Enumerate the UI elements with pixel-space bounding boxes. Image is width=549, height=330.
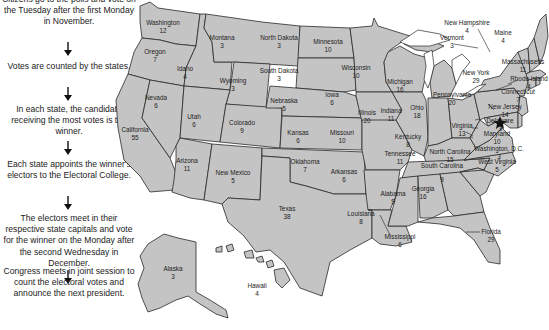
svg-text:6: 6 [296, 137, 300, 144]
svg-text:Delaware: Delaware [487, 117, 514, 124]
svg-text:4: 4 [255, 290, 259, 297]
svg-text:29: 29 [487, 236, 495, 243]
svg-text:11: 11 [520, 66, 527, 73]
svg-text:10: 10 [324, 46, 332, 53]
svg-text:6: 6 [154, 102, 158, 109]
svg-text:Virginia: Virginia [451, 122, 473, 130]
svg-text:Idaho: Idaho [177, 65, 193, 72]
svg-text:Florida: Florida [481, 228, 501, 235]
svg-text:11: 11 [397, 158, 404, 165]
svg-text:4: 4 [501, 37, 505, 44]
svg-text:3: 3 [231, 85, 235, 92]
svg-text:6: 6 [342, 176, 346, 183]
label-new-hampshire: New Hampshire4 [444, 19, 490, 34]
svg-text:18: 18 [413, 112, 421, 119]
svg-text:Michigan: Michigan [387, 78, 413, 86]
svg-text:7: 7 [303, 166, 307, 173]
svg-text:10: 10 [338, 137, 346, 144]
svg-text:5: 5 [231, 177, 235, 184]
svg-text:7: 7 [153, 56, 157, 63]
svg-text:5: 5 [495, 166, 499, 173]
svg-text:Maine: Maine [494, 29, 512, 36]
svg-text:Tennessee: Tennessee [385, 150, 416, 157]
svg-text:11: 11 [388, 115, 395, 122]
svg-text:Alaska: Alaska [163, 265, 183, 272]
svg-text:4: 4 [183, 73, 187, 80]
svg-text:Louisiana: Louisiana [347, 210, 375, 217]
state-wisconsin[interactable] [384, 46, 428, 92]
state-colorado[interactable] [220, 104, 282, 148]
svg-text:3: 3 [450, 42, 454, 49]
svg-text:3: 3 [277, 75, 281, 82]
svg-text:South Dakota: South Dakota [260, 67, 299, 74]
svg-text:Utah: Utah [187, 113, 201, 120]
svg-text:Mississippi: Mississippi [385, 233, 416, 241]
svg-text:8: 8 [359, 218, 363, 225]
svg-text:Oregon: Oregon [144, 48, 166, 56]
svg-text:Maryland: Maryland [484, 130, 511, 138]
svg-text:North Carolina: North Carolina [429, 148, 471, 155]
svg-text:8: 8 [406, 141, 410, 148]
svg-text:3: 3 [277, 42, 281, 49]
svg-text:Washington: Washington [146, 19, 180, 27]
svg-text:20: 20 [363, 117, 371, 124]
svg-text:Wyoming: Wyoming [220, 77, 247, 85]
svg-text:Kansas: Kansas [287, 129, 308, 136]
us-electoral-map: Washington12 Oregon7 California55 Idaho4… [0, 0, 549, 330]
svg-text:15: 15 [446, 156, 454, 163]
state-alaska[interactable] [138, 234, 228, 318]
svg-text:South Carolina: South Carolina [421, 162, 464, 169]
svg-text:Ohio: Ohio [410, 104, 424, 111]
svg-text:10: 10 [352, 72, 360, 79]
svg-text:55: 55 [131, 134, 139, 141]
svg-text:6: 6 [398, 241, 402, 248]
svg-text:Rhode Island: Rhode Island [510, 75, 548, 82]
svg-text:Oklahoma: Oklahoma [290, 158, 320, 165]
svg-text:Indiana: Indiana [381, 107, 402, 114]
svg-text:5: 5 [282, 105, 286, 112]
svg-text:Alabama: Alabama [380, 190, 406, 197]
svg-text:Iowa: Iowa [325, 91, 339, 98]
svg-text:New York: New York [463, 69, 491, 76]
svg-text:29: 29 [472, 77, 480, 84]
svg-text:Kentucky: Kentucky [395, 133, 422, 141]
svg-text:Arkansas: Arkansas [331, 168, 358, 175]
svg-text:Colorado: Colorado [229, 119, 255, 126]
label-hawaii: Hawaii4 [247, 282, 266, 297]
svg-text:38: 38 [283, 213, 291, 220]
svg-text:13: 13 [458, 130, 466, 137]
svg-text:10: 10 [493, 138, 501, 145]
svg-text:9: 9 [391, 198, 395, 205]
svg-text:Massachusetts: Massachusetts [502, 58, 545, 65]
svg-text:New Hampshire: New Hampshire [444, 19, 490, 27]
svg-text:3: 3 [220, 42, 224, 49]
svg-text:7: 7 [516, 96, 520, 103]
svg-text:4: 4 [465, 27, 469, 34]
svg-text:North Dakota: North Dakota [260, 34, 298, 41]
svg-text:6: 6 [192, 121, 196, 128]
svg-text:Hawaii: Hawaii [247, 282, 266, 289]
svg-text:Illinois: Illinois [358, 109, 376, 116]
svg-text:Pennsylvania: Pennsylvania [433, 91, 471, 99]
svg-text:Wisconsin: Wisconsin [341, 64, 371, 71]
svg-text:Minnesota: Minnesota [313, 38, 343, 45]
svg-text:California: California [122, 126, 149, 133]
svg-text:Connecticut: Connecticut [501, 88, 535, 95]
svg-text:9: 9 [240, 127, 244, 134]
svg-text:3: 3 [171, 273, 175, 280]
svg-text:11: 11 [184, 165, 191, 172]
svg-text:Texas: Texas [279, 205, 296, 212]
svg-text:16: 16 [419, 193, 427, 200]
svg-text:16: 16 [396, 86, 404, 93]
svg-text:3: 3 [497, 153, 501, 160]
svg-text:Nevada: Nevada [145, 94, 167, 101]
svg-text:9: 9 [440, 176, 444, 183]
svg-text:New Jersey: New Jersey [488, 103, 522, 111]
svg-text:12: 12 [159, 27, 167, 34]
svg-text:Nebraska: Nebraska [270, 97, 298, 104]
svg-text:Washington, D.C.: Washington, D.C. [474, 145, 524, 153]
svg-text:Arizona: Arizona [176, 157, 198, 164]
svg-text:Missouri: Missouri [330, 129, 354, 136]
svg-text:20: 20 [448, 99, 456, 106]
svg-text:6: 6 [330, 99, 334, 106]
